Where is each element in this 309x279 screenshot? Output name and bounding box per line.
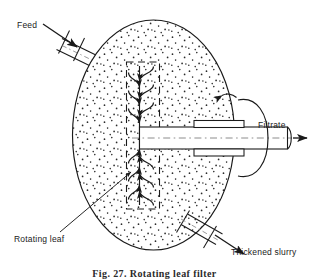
figure-caption: Fig. 27. Rotating leaf filter	[0, 268, 309, 279]
feed-arrow	[43, 24, 77, 47]
label-filtrate: Filtrate	[258, 120, 286, 130]
figure-rotating-leaf-filter: Feed Filtrate Thickened slurry Rotating …	[0, 0, 309, 279]
label-rotating-leaf: Rotating leaf	[14, 234, 64, 244]
label-feed: Feed	[17, 20, 37, 30]
label-thickened-slurry: Thickened slurry	[231, 247, 297, 257]
